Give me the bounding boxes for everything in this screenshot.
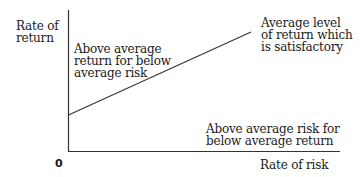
x-axis-label: Rate of risk xyxy=(260,159,328,171)
line-end-annotation: Average level of return which is satisfa… xyxy=(261,17,352,53)
lower-right-annotation: Above average risk for below average ret… xyxy=(206,123,340,147)
y-axis-label: Rate of return xyxy=(16,20,58,44)
origin-label: 0 xyxy=(55,157,63,170)
upper-left-annotation: Above average return for below average r… xyxy=(74,43,171,79)
risk-return-diagram: Rate of return Above average return for … xyxy=(0,0,363,177)
